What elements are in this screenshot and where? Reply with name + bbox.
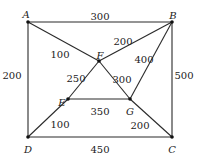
edge-weight-g-c: 200 [130,120,149,131]
edge-weight-d-e: 100 [50,119,69,130]
edge-weight-a-d: 200 [2,70,21,81]
edge-weight-b-c: 500 [174,70,193,81]
edge-weights-layer: 300200500450100200400250300350100200 [2,11,193,155]
node-label-b: B [168,10,176,21]
node-label-f: F [96,50,105,61]
node-label-e: E [57,97,66,108]
node-label-a: A [21,9,29,20]
edge-weight-a-b: 300 [90,11,109,22]
node-label-d: D [23,144,32,155]
weighted-graph-diagram: 300200500450100200400250300350100200 ABC… [0,0,200,158]
edge-weight-e-g: 350 [90,106,109,117]
node-label-g: G [126,106,134,117]
node-a [26,20,30,24]
nodes-layer [26,20,174,139]
node-labels-layer: ABCDEFG [21,9,176,155]
node-e [66,97,70,101]
node-label-c: C [168,144,176,155]
edge-weight-f-g: 300 [112,74,131,85]
edge-weight-d-c: 450 [90,144,109,155]
edge-g-c [130,99,172,137]
edge-weight-b-g: 400 [134,54,153,65]
node-g [128,97,132,101]
node-b [170,20,174,24]
edge-weight-f-b: 200 [113,36,132,47]
edge-weight-a-f: 100 [50,49,69,60]
node-c [170,135,174,139]
edge-weight-f-e: 250 [66,73,85,84]
node-d [26,135,30,139]
